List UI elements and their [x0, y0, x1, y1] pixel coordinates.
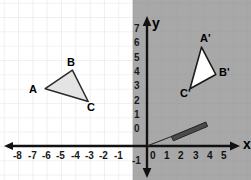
y-tick-label: 7 [134, 24, 140, 34]
coordinate-plane-svg [0, 0, 251, 180]
x-tick-label: -5 [56, 151, 65, 161]
x-axis-label: x [243, 137, 251, 151]
x-tick-label: 3 [193, 151, 199, 161]
y-tick-label: 1 [134, 110, 140, 120]
y-tick-label: 5 [134, 53, 140, 63]
y-tick-label: 2 [134, 96, 140, 106]
x-tick-label: 2 [178, 151, 184, 161]
vertex-label-c: C [87, 102, 95, 113]
y-tick-label: 4 [134, 67, 140, 77]
vertex-label-b-prime: B' [219, 67, 230, 78]
x-tick-label: -6 [42, 151, 51, 161]
y-tick-label: 6 [134, 38, 140, 48]
y-tick-label: 0 [134, 124, 140, 134]
y-tick-label: -1 [132, 156, 141, 166]
vertex-label-a-prime: A' [200, 33, 211, 44]
vertex-label-a: A [29, 84, 37, 95]
x-tick-label: -7 [28, 151, 37, 161]
x-tick-label: 4 [207, 151, 213, 161]
x-tick-label: -3 [85, 151, 94, 161]
x-tick-label: 0 [150, 151, 156, 161]
y-axis-label: y [152, 16, 160, 30]
x-tick-label: -2 [99, 151, 108, 161]
vertex-label-c-prime: C' [180, 88, 191, 99]
x-tick-label: 1 [164, 151, 170, 161]
vertex-label-b: B [67, 57, 75, 68]
x-tick-label: -4 [71, 151, 80, 161]
coordinate-plane-figure: -8 -7 -6 -5 -4 -3 -2 -1 0 1 2 3 4 5 7 6 … [0, 0, 251, 180]
x-tick-label: -1 [114, 151, 123, 161]
y-tick-label: 3 [134, 81, 140, 91]
x-tick-label: -8 [13, 151, 22, 161]
x-tick-label: 5 [221, 151, 227, 161]
